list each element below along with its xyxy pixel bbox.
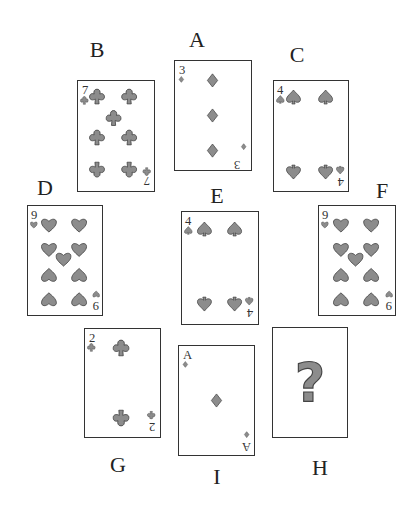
card-c-rank: 4 (277, 83, 284, 97)
label-e: E (210, 185, 223, 207)
diamond-icon (211, 394, 221, 407)
card-c-four-of-spades: 4 4 (273, 80, 349, 192)
club-icon (113, 410, 129, 426)
spade-icon (228, 222, 242, 236)
card-d-rank-inverted: 9 (93, 299, 99, 313)
card-e-rank: 4 (185, 214, 192, 228)
spade-icon (197, 297, 211, 311)
club-icon (90, 130, 105, 145)
card-g-rank: 2 (89, 331, 95, 345)
spade-icon (286, 90, 300, 104)
heart-icon (364, 268, 379, 281)
card-d-rank: 9 (31, 208, 37, 222)
card-f-rank-inverted: 9 (386, 299, 392, 313)
heart-icon (72, 244, 87, 257)
diamond-icon (241, 144, 246, 150)
heart-icon (364, 244, 379, 257)
card-a-rank-inverted: 3 (234, 158, 240, 172)
heart-icon (41, 268, 56, 281)
label-d: D (37, 177, 53, 199)
card-h-unknown: ? (272, 327, 348, 438)
label-g: G (110, 454, 126, 476)
label-c: C (290, 44, 305, 66)
spade-icon (286, 165, 300, 179)
card-g-rank-inverted: 2 (149, 420, 155, 434)
heart-icon (56, 253, 71, 266)
card-i-rank-inverted: A (241, 440, 251, 454)
card-e-four-of-spades: 4 4 (181, 211, 259, 325)
club-icon (90, 162, 105, 177)
diamond-icon (207, 109, 217, 122)
heart-icon (321, 222, 328, 228)
heart-icon (93, 291, 100, 297)
heart-icon (364, 219, 379, 232)
card-f-rank: 9 (322, 208, 328, 222)
heart-icon (72, 293, 87, 306)
label-i: I (213, 466, 220, 488)
card-a-rank: 3 (179, 63, 185, 77)
label-b: B (90, 39, 105, 61)
heart-icon (41, 219, 56, 232)
spade-icon (336, 166, 344, 174)
label-a: A (189, 29, 205, 51)
spade-icon (197, 222, 211, 236)
club-icon (90, 89, 105, 104)
spade-icon (228, 297, 242, 311)
question-mark-icon: ? (295, 352, 326, 413)
club-icon (80, 96, 88, 104)
club-icon (113, 340, 129, 356)
heart-icon (41, 293, 56, 306)
heart-icon (72, 268, 87, 281)
card-i-rank: A (183, 348, 193, 362)
card-c-rank-inverted: 4 (337, 175, 344, 189)
label-h: H (312, 457, 328, 479)
club-icon (122, 162, 137, 177)
club-icon (106, 111, 121, 126)
card-f-nine-of-hearts: 9 9 (318, 205, 396, 316)
heart-icon (41, 244, 56, 257)
heart-icon (333, 268, 348, 281)
card-g-two-of-clubs: 2 2 (84, 328, 161, 438)
heart-icon (364, 293, 379, 306)
diamond-icon (244, 432, 249, 438)
heart-icon (386, 291, 393, 297)
card-b-rank: 7 (82, 83, 88, 97)
diamond-icon (207, 74, 217, 87)
card-b-rank-inverted: 7 (144, 174, 150, 188)
spade-icon (319, 90, 333, 104)
heart-icon (348, 253, 363, 266)
heart-icon (333, 219, 348, 232)
label-f: F (376, 180, 388, 202)
diamond-icon (183, 361, 188, 367)
card-a-three-of-diamonds: 3 3 (174, 60, 252, 171)
heart-icon (333, 293, 348, 306)
card-i-ace-of-diamonds: A A (178, 345, 255, 456)
club-icon (122, 89, 137, 104)
card-d-nine-of-hearts: 9 9 (27, 205, 103, 316)
club-icon (147, 411, 155, 419)
spade-icon (245, 297, 253, 305)
diamond-icon (207, 144, 217, 157)
diamond-icon (179, 76, 184, 82)
heart-icon (333, 244, 348, 257)
card-e-rank-inverted: 4 (246, 306, 253, 320)
card-b-seven-of-clubs: 7 7 (77, 80, 155, 192)
heart-icon (72, 219, 87, 232)
spade-icon (319, 165, 333, 179)
heart-icon (30, 222, 37, 228)
club-icon (122, 130, 137, 145)
